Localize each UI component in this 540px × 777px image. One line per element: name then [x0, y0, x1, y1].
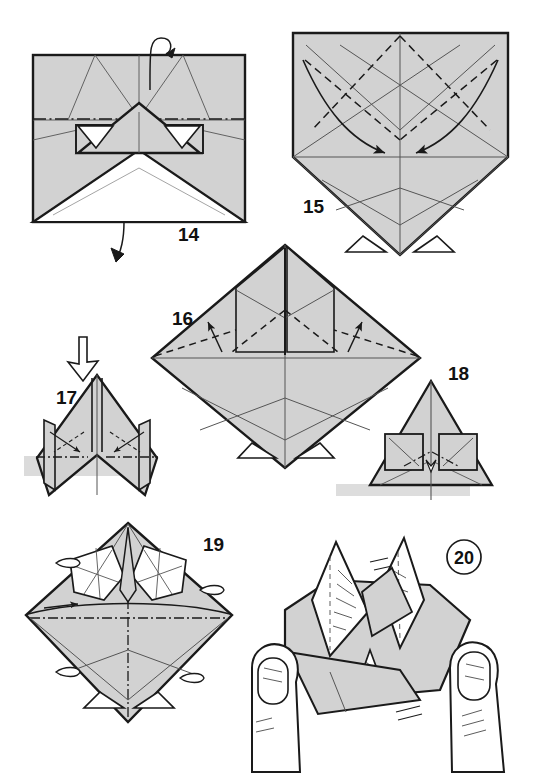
step-16-number: 16 — [172, 308, 193, 329]
step-17-number: 17 — [56, 387, 77, 408]
step-16-figure: 16 — [152, 245, 420, 468]
step20-left-thumbnail — [258, 658, 288, 704]
step20-right-thumbnail — [458, 652, 490, 700]
step-14-number: 14 — [178, 224, 200, 245]
instruction-sheet: 14 — [0, 0, 540, 777]
step-14-figure: 14 — [33, 38, 245, 262]
step17-panel-right — [139, 420, 150, 490]
step-17-figure: 17 — [24, 337, 158, 495]
step-20-figure: 20 — [252, 538, 504, 772]
origami-diagram-svg: 14 — [0, 0, 540, 777]
step17-view-arrow — [68, 337, 98, 381]
step-15-figure: 15 — [293, 33, 508, 255]
step-19-number: 19 — [203, 534, 224, 555]
step-18-number: 18 — [448, 363, 469, 384]
step-15-number: 15 — [303, 196, 325, 217]
step-20-number: 20 — [454, 548, 474, 568]
step16-flap-left — [236, 247, 285, 352]
step14-fold-down-arrow — [111, 222, 124, 262]
step15-foot-left — [346, 236, 386, 252]
step16-flap-right — [287, 247, 334, 352]
step-19-figure: 19 — [26, 523, 232, 722]
step17-panel-left — [44, 420, 55, 490]
